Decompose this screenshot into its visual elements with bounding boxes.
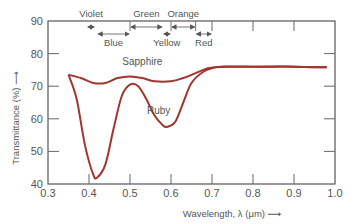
plot-frame xyxy=(48,21,335,184)
y-axis-label: Transmittance (%) ⟶ xyxy=(10,71,21,165)
y-tick-label: 60 xyxy=(31,113,43,125)
svg-text:Violet: Violet xyxy=(79,8,103,19)
band-yellow: Yellow xyxy=(153,34,180,48)
y-tick-label: 90 xyxy=(31,15,43,27)
label-sapphire: Sapphire xyxy=(122,56,162,67)
transmittance-chart: 0.30.40.50.60.70.80.91.0405060708090 Vio… xyxy=(0,0,354,224)
svg-text:Yellow: Yellow xyxy=(153,37,180,48)
band-red: Red xyxy=(195,34,212,48)
band-blue: Blue xyxy=(98,34,129,48)
svg-text:Blue: Blue xyxy=(104,37,123,48)
x-tick-label: 0.9 xyxy=(286,187,301,199)
svg-text:Green: Green xyxy=(133,8,159,19)
x-tick-label: 0.5 xyxy=(122,187,137,199)
svg-text:Orange: Orange xyxy=(167,8,199,19)
band-green: Green xyxy=(130,8,162,31)
y-tick-label: 80 xyxy=(31,48,43,60)
band-orange: Orange xyxy=(167,8,199,31)
color-band-annotations: VioletBlueGreenYellowOrangeRed xyxy=(79,8,212,48)
plot-axes xyxy=(48,21,335,184)
curves xyxy=(69,67,327,179)
svg-text:Red: Red xyxy=(195,37,212,48)
y-tick-label: 40 xyxy=(31,178,43,190)
label-ruby: Ruby xyxy=(147,105,170,116)
x-tick-label: 0.4 xyxy=(81,187,96,199)
x-tick-label: 0.8 xyxy=(245,187,260,199)
x-axis-label: Wavelength, λ (μm) ⟶ xyxy=(183,208,282,219)
y-tick-label: 70 xyxy=(31,80,43,92)
y-tick-label: 50 xyxy=(31,145,43,157)
x-tick-label: 1.0 xyxy=(327,187,342,199)
band-violet: Violet xyxy=(79,8,103,27)
x-tick-label: 0.6 xyxy=(163,187,178,199)
x-tick-label: 0.7 xyxy=(204,187,219,199)
